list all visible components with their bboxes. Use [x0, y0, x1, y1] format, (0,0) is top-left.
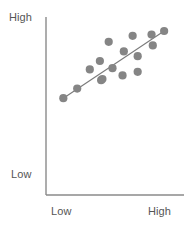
scatter-plot-figure: High Low Low High [0, 0, 194, 231]
data-point [147, 30, 155, 38]
data-point [98, 75, 106, 83]
data-point [73, 85, 81, 93]
data-point [149, 41, 157, 49]
data-points-group [59, 27, 168, 102]
data-point [160, 27, 168, 35]
data-point [96, 57, 104, 65]
data-point [129, 32, 137, 40]
data-point [108, 64, 116, 72]
data-point [86, 65, 94, 73]
data-point [105, 38, 113, 46]
data-point [120, 47, 128, 55]
data-point [134, 52, 142, 60]
data-point [118, 71, 126, 79]
plot-area [0, 0, 194, 231]
data-point [59, 94, 67, 102]
data-point [134, 68, 142, 76]
